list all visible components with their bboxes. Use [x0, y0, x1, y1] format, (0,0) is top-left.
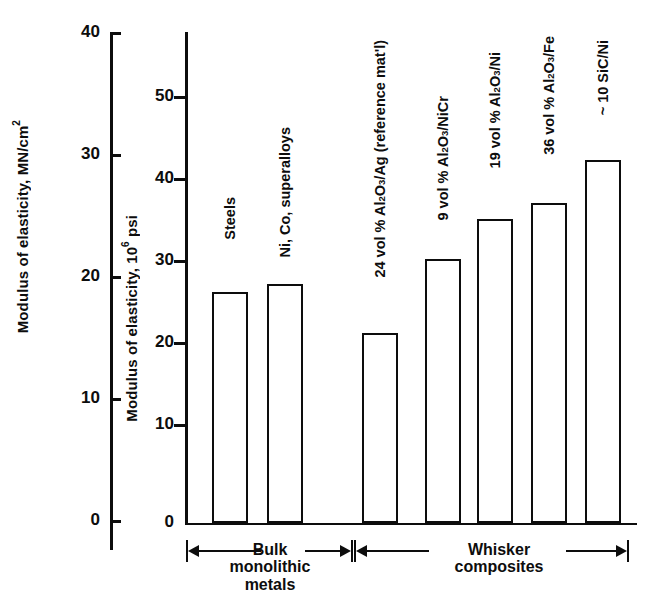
x-axis-baseline: [185, 523, 637, 526]
bar-label-text: /Fe: [541, 36, 557, 57]
bar-label-text: /NiCr: [435, 96, 451, 131]
bar-label-text: O: [541, 62, 557, 73]
bar-label-text: Ni, Co, superalloys: [277, 127, 293, 258]
bar-label-text: ~ 10 SiC/Ni: [595, 40, 611, 115]
outer-tick-mark-0: [110, 520, 121, 523]
bracket-arrow-bulk-left: [188, 545, 199, 557]
bar-ni-co-superalloys: [267, 284, 303, 523]
bar-label-text: O: [372, 185, 388, 196]
inner-axis-line: [185, 32, 188, 525]
bracket-arrow-whisker-left: [356, 545, 367, 557]
inner-tick-mark-40: [174, 178, 185, 181]
bar-al2o3-fe-36: [531, 203, 567, 523]
inner-tick-label-40: 40: [138, 168, 174, 188]
bar-label-sub: 2: [376, 196, 387, 201]
bracket-line-whisker-left: [367, 550, 429, 552]
outer-tick-mark-20: [110, 276, 121, 279]
inner-tick-mark-50: [174, 96, 185, 99]
bracket-arrow-whisker-right: [616, 545, 627, 557]
bar-label-sub: 3: [439, 131, 450, 136]
outer-tick-label-40: 40: [62, 22, 100, 42]
inner-axis-title-tail: psi: [123, 215, 140, 241]
inner-tick-label-20: 20: [138, 332, 174, 352]
bar-label-text: 9 vol % Al: [435, 153, 451, 221]
bar-label-text: 19 vol % Al: [487, 92, 503, 168]
outer-tick-mark-10: [110, 398, 121, 401]
bracket-arrow-bulk-right: [340, 545, 351, 557]
bracket-tick-whisker-right: [627, 540, 629, 562]
group-label-bulk-monolithic-metals: Bulk monolithic metals: [206, 541, 334, 593]
bar-label-al2o3-fe-36: 36 vol % Al2O3/Fe: [542, 36, 557, 155]
bar-label-ni-co-superalloys: Ni, Co, superalloys: [278, 127, 293, 258]
bar-label-sub: 3: [376, 180, 387, 185]
bar-label-text: 24 vol % Al: [372, 202, 388, 278]
outer-axis-title: Modulus of elasticity, MN/cm2: [12, 120, 30, 333]
outer-axis-title-text: Modulus of elasticity, MN/cm: [14, 126, 31, 334]
inner-tick-mark-20: [174, 342, 185, 345]
bracket-line-whisker-right: [566, 550, 616, 552]
bar-label-al2o3-ag-reference: 24 vol % Al2O3/Ag (reference mat'l): [373, 40, 388, 278]
bar-label-al2o3-nicr-9: 9 vol % Al2O3/NiCr: [436, 96, 451, 221]
bar-chart: Modulus of elasticity, MN/cm2 40 30 20 1…: [0, 0, 651, 613]
bar-al2o3-nicr-9: [425, 259, 461, 523]
bar-steels: [212, 292, 248, 523]
bar-label-text: O: [435, 136, 451, 147]
outer-axis-title-superscript: 2: [11, 120, 22, 126]
inner-tick-label-0: 0: [138, 512, 174, 532]
inner-tick-mark-10: [174, 424, 185, 427]
bar-sic-ni-10: [585, 160, 621, 523]
bracket-tick-bulk-right: [351, 540, 353, 562]
bar-label-sub: 2: [439, 147, 450, 152]
inner-axis-title: Modulus of elasticity, 106 psi: [121, 215, 139, 422]
bar-label-steels: Steels: [223, 197, 238, 240]
inner-tick-label-50: 50: [138, 86, 174, 106]
bar-al2o3-ag-reference: [362, 333, 398, 523]
outer-tick-mark-40: [110, 32, 121, 35]
bar-label-al2o3-ni-19: 19 vol % Al2O3/Ni: [488, 52, 503, 168]
bar-label-sub: 3: [491, 71, 502, 76]
bar-label-text: /Ag (reference mat'l): [372, 40, 388, 180]
bar-al2o3-ni-19: [477, 219, 513, 523]
inner-tick-label-10: 10: [138, 414, 174, 434]
outer-tick-label-0: 0: [62, 510, 100, 530]
outer-tick-label-10: 10: [62, 388, 100, 408]
outer-tick-label-20: 20: [62, 266, 100, 286]
inner-tick-label-30: 30: [138, 250, 174, 270]
bar-label-sub: 2: [545, 74, 556, 79]
bar-label-text: Steels: [222, 197, 238, 240]
outer-tick-mark-30: [110, 154, 121, 157]
bar-label-text: 36 vol % Al: [541, 79, 557, 155]
group-label-whisker-composites: Whisker composites: [425, 541, 573, 576]
bar-label-text: /Ni: [487, 52, 503, 71]
bar-label-sic-ni-10: ~ 10 SiC/Ni: [596, 40, 611, 115]
bar-label-text: O: [487, 76, 503, 87]
bar-label-sub: 3: [545, 57, 556, 62]
outer-axis-line: [110, 32, 113, 550]
inner-tick-mark-30: [174, 260, 185, 263]
bar-label-sub: 2: [491, 87, 502, 92]
inner-axis-title-superscript: 6: [120, 241, 131, 247]
outer-tick-label-30: 30: [62, 144, 100, 164]
